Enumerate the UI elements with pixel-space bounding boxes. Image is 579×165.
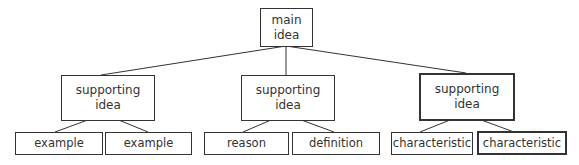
supporting-idea-1-line-1: supporting (76, 83, 141, 98)
leaf-label: characteristic (483, 136, 561, 151)
leaf-label: reason (227, 136, 266, 151)
supporting-idea-3-line-1: supporting (435, 82, 500, 97)
leaf-label: example (34, 136, 84, 151)
leaf-box-reason: reason (204, 132, 289, 155)
leaf-label: characteristic (393, 136, 471, 151)
main-idea-box: main idea (260, 8, 313, 47)
main-idea-line-2: idea (272, 28, 302, 43)
leaf-label: definition (309, 136, 363, 151)
supporting-idea-3-line-2: idea (435, 97, 500, 112)
supporting-idea-box-1: supporting idea (61, 75, 155, 121)
supporting-idea-2-line-2: idea (256, 98, 321, 113)
leaf-box-example-2: example (105, 132, 192, 155)
supporting-idea-2-line-1: supporting (256, 83, 321, 98)
leaf-box-definition: definition (292, 132, 380, 155)
connector-root-to-supporting-3 (286, 46, 466, 73)
leaf-box-characteristic-2: characteristic (477, 131, 567, 155)
leaf-box-example-1: example (15, 132, 103, 155)
connector-root-to-supporting-1 (101, 46, 286, 75)
leaf-box-characteristic-1: characteristic (391, 132, 473, 155)
leaf-label: example (124, 136, 174, 151)
supporting-idea-1-line-2: idea (76, 98, 141, 113)
main-idea-line-1: main (272, 13, 302, 28)
supporting-idea-box-3: supporting idea (419, 73, 515, 121)
supporting-idea-box-2: supporting idea (241, 75, 335, 121)
